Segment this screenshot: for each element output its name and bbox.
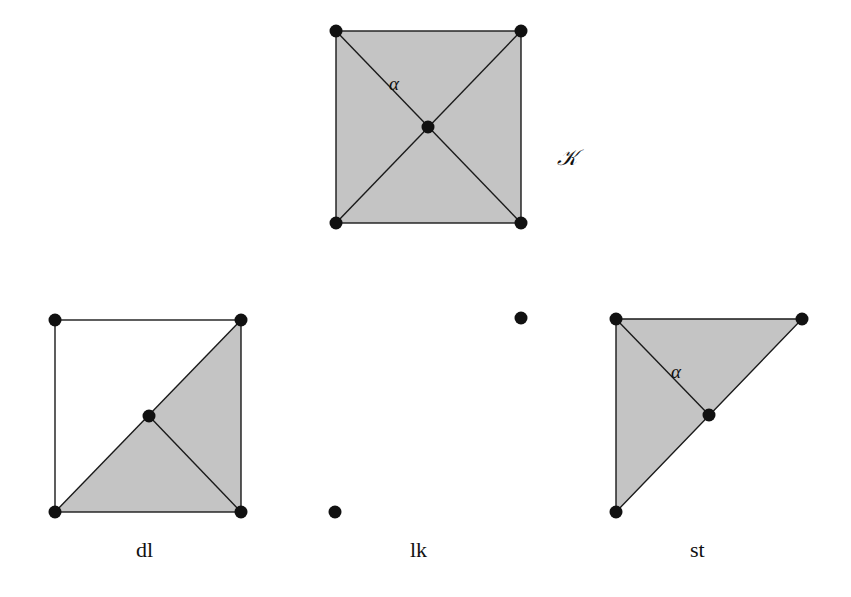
- vertex: [515, 312, 528, 325]
- center-vertex: [703, 409, 716, 422]
- vertex: [515, 25, 528, 38]
- vertex: [329, 506, 342, 519]
- star-figure: α st: [610, 313, 809, 563]
- simplicial-complex-diagram: α 𝒦 dl lk α st: [0, 0, 851, 597]
- vertex: [515, 217, 528, 230]
- vertex: [330, 25, 343, 38]
- vertex: [235, 314, 248, 327]
- deletion-label: dl: [136, 537, 153, 562]
- vertex: [796, 313, 809, 326]
- vertex: [49, 506, 62, 519]
- vertex: [235, 506, 248, 519]
- vertex: [610, 313, 623, 326]
- alpha-label: α: [671, 361, 682, 382]
- vertex: [330, 217, 343, 230]
- center-vertex: [422, 121, 435, 134]
- vertex: [610, 506, 623, 519]
- complex-label: 𝒦: [557, 145, 584, 170]
- link-figure: lk: [329, 312, 528, 563]
- star-label: st: [690, 537, 705, 562]
- deletion-figure: dl: [49, 314, 248, 563]
- complex-k-figure: α 𝒦: [330, 25, 585, 230]
- vertex: [49, 314, 62, 327]
- center-vertex: [143, 410, 156, 423]
- alpha-label: α: [389, 73, 400, 94]
- link-label: lk: [410, 537, 427, 562]
